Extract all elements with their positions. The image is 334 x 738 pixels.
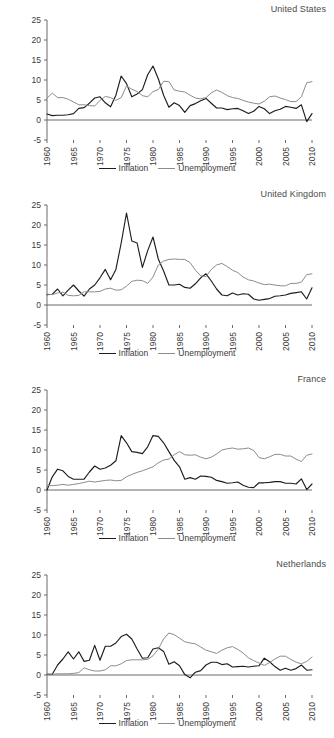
legend-label-unemployment: Unemployment	[178, 348, 235, 358]
y-tick-label: 5	[36, 95, 41, 105]
y-tick-label: -5	[33, 320, 41, 330]
y-tick-label: 15	[32, 240, 42, 250]
y-tick-label: -5	[33, 505, 41, 515]
y-tick-label: 5	[36, 280, 41, 290]
y-tick-label: 15	[32, 610, 42, 620]
legend-line-icon-unemployment	[158, 538, 175, 539]
y-tick-label: 10	[32, 75, 42, 85]
y-tick-label: -5	[33, 690, 41, 700]
legend-item-inflation: Inflation	[99, 718, 149, 728]
y-tick-label: 10	[32, 445, 42, 455]
plot-area: 2520151050-51960196519701975198019851990…	[0, 555, 334, 738]
y-tick-label: 20	[32, 35, 42, 45]
y-tick-label: 0	[36, 115, 41, 125]
y-tick-label: 10	[32, 260, 42, 270]
legend-item-unemployment: Unemployment	[158, 163, 235, 173]
y-tick-label: 15	[32, 425, 42, 435]
y-tick-label: 20	[32, 590, 42, 600]
y-tick-label: 5	[36, 650, 41, 660]
legend-label-unemployment: Unemployment	[178, 163, 235, 173]
legend-label-inflation: Inflation	[119, 163, 149, 173]
legend-line-icon-inflation	[99, 538, 116, 539]
legend-item-unemployment: Unemployment	[158, 533, 235, 543]
legend-label-inflation: Inflation	[119, 718, 149, 728]
legend-label-inflation: Inflation	[119, 348, 149, 358]
legend-line-icon-unemployment	[158, 353, 175, 354]
chart-legend: InflationUnemployment	[0, 533, 334, 543]
chart-panel-united-kingdom: United Kingdom2520151050-519601965197019…	[0, 185, 334, 370]
plot-area: 2520151050-51960196519701975198019851990…	[0, 0, 334, 185]
y-tick-label: 0	[36, 485, 41, 495]
legend-item-inflation: Inflation	[99, 163, 149, 173]
legend-line-icon-unemployment	[158, 723, 175, 724]
plot-area: 2520151050-51960196519701975198019851990…	[0, 370, 334, 555]
legend-item-inflation: Inflation	[99, 348, 149, 358]
y-tick-label: 15	[32, 55, 42, 65]
y-tick-label: 20	[32, 220, 42, 230]
chart-panel-united-states: United States2520151050-5196019651970197…	[0, 0, 334, 185]
chart-legend: InflationUnemployment	[0, 163, 334, 173]
chart-panel-netherlands: Netherlands2520151050-519601965197019751…	[0, 555, 334, 738]
y-tick-label: -5	[33, 135, 41, 145]
series-line-inflation	[47, 66, 312, 122]
y-tick-label: 25	[32, 570, 42, 580]
y-tick-label: 25	[32, 200, 42, 210]
chart-legend: InflationUnemployment	[0, 348, 334, 358]
legend-label-unemployment: Unemployment	[178, 533, 235, 543]
series-line-unemployment	[47, 81, 312, 106]
plot-area: 2520151050-51960196519701975198019851990…	[0, 185, 334, 370]
y-tick-label: 20	[32, 405, 42, 415]
y-tick-label: 10	[32, 630, 42, 640]
legend-line-icon-unemployment	[158, 168, 175, 169]
legend-label-inflation: Inflation	[119, 533, 149, 543]
series-line-unemployment	[47, 633, 312, 674]
chart-legend: InflationUnemployment	[0, 718, 334, 728]
legend-item-unemployment: Unemployment	[158, 718, 235, 728]
y-tick-label: 25	[32, 15, 42, 25]
legend-item-unemployment: Unemployment	[158, 348, 235, 358]
series-line-unemployment	[47, 259, 312, 296]
y-tick-label: 5	[36, 465, 41, 475]
legend-item-inflation: Inflation	[99, 533, 149, 543]
y-tick-label: 25	[32, 385, 42, 395]
chart-panel-france: France2520151050-51960196519701975198019…	[0, 370, 334, 555]
series-line-inflation	[47, 634, 312, 678]
series-line-inflation	[47, 213, 312, 300]
y-tick-label: 0	[36, 300, 41, 310]
figure-root: United States2520151050-5196019651970197…	[0, 0, 334, 738]
legend-label-unemployment: Unemployment	[178, 718, 235, 728]
legend-line-icon-inflation	[99, 353, 116, 354]
legend-line-icon-inflation	[99, 723, 116, 724]
y-tick-label: 0	[36, 670, 41, 680]
legend-line-icon-inflation	[99, 168, 116, 169]
